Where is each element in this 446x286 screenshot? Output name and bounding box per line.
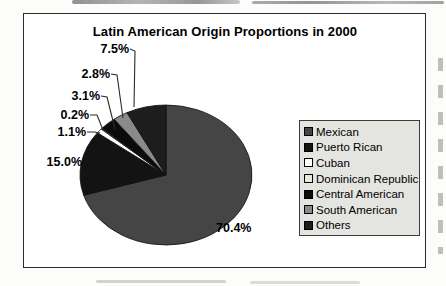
legend-item-dominican-republic: Dominican Republic [304,171,419,187]
legend-swatch-others [304,221,313,230]
legend-label-central-american: Central American [316,188,404,200]
leader-line-cuban [87,132,100,133]
legend-swatch-south-american [304,205,313,214]
legend-swatch-dominican-republic [304,174,313,183]
legend-label-puerto-rican: Puerto Rican [316,141,382,153]
data-label-cuban: 1.1% [58,125,87,139]
data-label-dominican-republic: 0.2% [61,108,90,122]
data-label-others: 7.5% [101,42,130,56]
legend-label-cuban: Cuban [316,157,350,169]
legend-swatch-mexican [304,127,313,136]
legend-swatch-central-american [304,190,313,199]
data-label-central-american: 3.1% [72,89,101,103]
data-label-mexican: 70.4% [216,221,251,235]
legend-item-others: Others [304,218,419,234]
legend-label-south-american: South American [316,204,397,216]
legend: Mexican Puerto Rican Cuban Dominican Rep… [299,120,420,236]
leader-line-dominican-republic [90,115,103,130]
legend-item-central-american: Central American [304,186,419,202]
data-label-south-american: 2.8% [82,67,111,81]
leader-line-south-american [111,74,123,118]
legend-item-mexican: Mexican [304,124,419,140]
legend-label-dominican-republic: Dominican Republic [316,173,418,185]
leader-line-others [130,49,135,107]
legend-swatch-cuban [304,158,313,167]
legend-item-cuban: Cuban [304,155,419,171]
screenshot-canvas: Latin American Origin Proportions in 200… [0,0,446,286]
legend-label-mexican: Mexican [316,126,359,138]
data-label-puerto-rican: 15.0% [47,155,82,169]
legend-item-south-american: South American [304,202,419,218]
legend-swatch-puerto-rican [304,143,313,152]
legend-label-others: Others [316,219,351,231]
legend-item-puerto-rican: Puerto Rican [304,140,419,156]
